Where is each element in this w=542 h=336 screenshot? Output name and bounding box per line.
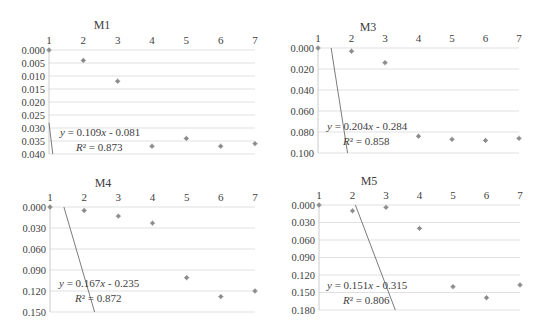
x-tick-label: 2 <box>350 189 356 201</box>
r-squared-label: R² = 0.872 <box>75 292 122 304</box>
y-tick-label: 0.040 <box>21 149 45 160</box>
y-tick-label: 0.030 <box>21 123 45 134</box>
x-tick-label: 4 <box>149 34 155 46</box>
y-tick-label: 0.035 <box>21 136 45 147</box>
trendline-equation: y = 0.167x - 0.235 <box>59 277 139 289</box>
data-point-marker <box>46 47 51 52</box>
x-tick-label: 4 <box>417 189 423 201</box>
y-tick-label: 0.000 <box>21 45 45 56</box>
y-tick-label: 0.080 <box>290 127 314 138</box>
x-tick-label: 1 <box>316 189 322 201</box>
data-point-marker <box>517 282 522 287</box>
data-point-marker <box>150 221 155 226</box>
data-point-marker <box>184 275 189 280</box>
r-squared-label: R² = 0.873 <box>76 141 123 153</box>
y-tick-label: 0.005 <box>21 58 45 69</box>
data-point-marker <box>383 205 388 210</box>
data-point-marker <box>252 141 257 146</box>
y-tick-label: 0.040 <box>290 85 314 96</box>
chart-panel-m1: 0.0000.0050.0100.0150.0200.0250.0300.035… <box>0 0 271 168</box>
data-point-marker <box>82 208 87 213</box>
chart-title: M4 <box>73 176 133 191</box>
y-tick-label: 0.030 <box>291 217 315 228</box>
trendline-equation: y = 0.109x - 0.081 <box>60 126 140 138</box>
y-tick-label: 0.180 <box>291 305 315 316</box>
data-point-marker <box>184 136 189 141</box>
chart-title: M5 <box>339 174 399 189</box>
x-tick-label: 4 <box>150 191 156 203</box>
chart-panel-m5: 0.0000.0300.0600.0900.1200.1500.18012345… <box>271 168 542 336</box>
y-tick-label: 0.015 <box>21 84 45 95</box>
x-tick-label: 2 <box>81 34 87 46</box>
y-tick-label: 0.150 <box>22 307 46 318</box>
x-tick-label: 6 <box>484 189 490 201</box>
y-tick-label: 0.060 <box>22 244 46 255</box>
data-point-marker <box>218 294 223 299</box>
y-tick-label: 0.090 <box>291 252 315 263</box>
chart-svg: 0.0000.0050.0100.0150.0200.0250.0300.035… <box>0 0 271 168</box>
x-tick-label: 7 <box>516 32 522 44</box>
trendline <box>49 123 53 154</box>
x-tick-label: 3 <box>383 189 389 201</box>
y-tick-label: 0.090 <box>22 265 46 276</box>
chart-svg: 0.0000.0300.0600.0900.1200.1500.18012345… <box>271 168 542 336</box>
x-tick-label: 1 <box>47 191 53 203</box>
trendline-equation: y = 0.151x - 0.315 <box>327 279 407 291</box>
data-point-marker <box>316 202 321 207</box>
data-point-marker <box>516 136 521 141</box>
y-tick-label: 0.000 <box>22 202 46 213</box>
data-point-marker <box>116 214 121 219</box>
data-point-marker <box>382 60 387 65</box>
r-squared-label: R² = 0.858 <box>343 135 390 147</box>
x-tick-label: 7 <box>252 34 258 46</box>
x-tick-label: 5 <box>449 32 455 44</box>
data-point-marker <box>252 288 257 293</box>
chart-svg: 0.0000.0200.0400.0600.0800.1001234567 <box>271 0 542 168</box>
x-tick-label: 5 <box>184 34 190 46</box>
data-point-marker <box>484 295 489 300</box>
y-tick-label: 0.060 <box>290 106 314 117</box>
chart-title: M1 <box>72 18 132 33</box>
y-tick-label: 0.010 <box>21 71 45 82</box>
x-tick-label: 3 <box>116 191 122 203</box>
data-point-marker <box>483 138 488 143</box>
y-tick-label: 0.025 <box>21 110 45 121</box>
y-tick-label: 0.150 <box>291 287 315 298</box>
y-tick-label: 0.030 <box>22 223 46 234</box>
data-point-marker <box>450 284 455 289</box>
data-point-marker <box>350 208 355 213</box>
chart-panel-m4: 0.0000.0300.0600.0900.1200.1501234567M4y… <box>0 168 271 336</box>
data-point-marker <box>47 204 52 209</box>
chart-panel-m3: 0.0000.0200.0400.0600.0800.1001234567M3y… <box>271 0 542 168</box>
r-squared-label: R² = 0.806 <box>343 294 390 306</box>
x-tick-label: 3 <box>115 34 121 46</box>
y-tick-label: 0.020 <box>21 97 45 108</box>
x-tick-label: 7 <box>517 189 523 201</box>
y-tick-label: 0.120 <box>22 286 46 297</box>
data-point-marker <box>449 137 454 142</box>
x-tick-label: 7 <box>252 191 258 203</box>
y-tick-label: 0.100 <box>290 148 314 159</box>
data-point-marker <box>81 58 86 63</box>
x-tick-label: 5 <box>184 191 190 203</box>
chart-title: M3 <box>338 20 398 35</box>
data-point-marker <box>416 134 421 139</box>
x-tick-label: 1 <box>315 32 321 44</box>
data-point-marker <box>315 45 320 50</box>
data-point-marker <box>417 226 422 231</box>
x-tick-label: 4 <box>416 32 422 44</box>
x-tick-label: 5 <box>450 189 456 201</box>
chart-svg: 0.0000.0300.0600.0900.1200.1501234567 <box>0 168 271 336</box>
y-tick-label: 0.120 <box>291 270 315 281</box>
data-point-marker <box>218 144 223 149</box>
x-tick-label: 6 <box>483 32 489 44</box>
x-tick-label: 1 <box>46 34 52 46</box>
x-tick-label: 6 <box>218 34 224 46</box>
y-tick-label: 0.020 <box>290 64 314 75</box>
x-tick-label: 6 <box>218 191 224 203</box>
y-tick-label: 0.000 <box>290 43 314 54</box>
y-tick-label: 0.060 <box>291 235 315 246</box>
data-point-marker <box>115 79 120 84</box>
data-point-marker <box>149 144 154 149</box>
trendline-equation: y = 0.204x - 0.284 <box>327 120 407 132</box>
